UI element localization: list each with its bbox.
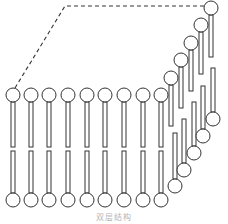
lipid-head <box>42 193 56 207</box>
lipid-head <box>61 88 75 102</box>
lipid-head <box>42 88 56 102</box>
lipid-head <box>187 146 201 160</box>
lipid-head <box>177 163 191 177</box>
lipid-tail <box>182 119 186 163</box>
lipid-tail <box>29 102 33 147</box>
lipid-tail <box>122 102 126 147</box>
lipid-tail <box>209 15 213 57</box>
lipid-head <box>80 193 94 207</box>
lipid-head <box>136 193 150 207</box>
lipid-tail <box>11 151 15 193</box>
lipid-tail <box>189 50 193 91</box>
lipid-head <box>6 193 20 207</box>
lipid-head <box>154 193 168 207</box>
lipid-head <box>194 18 208 32</box>
lipid-tail <box>169 85 173 126</box>
lipid-head <box>168 179 182 193</box>
lipid-head <box>24 88 38 102</box>
lipid-tail <box>141 151 145 193</box>
lipid-tail <box>141 102 145 147</box>
figure-caption: 双层结构 <box>0 211 228 222</box>
lipid-bilayer-diagram <box>0 0 228 224</box>
lipid-head <box>117 88 131 102</box>
lipid-tail <box>199 32 203 74</box>
lipid-tail <box>103 102 107 147</box>
lipid-head <box>196 129 210 143</box>
lipid-head <box>117 193 131 207</box>
lipid-tail <box>192 102 196 146</box>
lipid-tail <box>179 67 183 108</box>
lipid-tail <box>201 86 205 129</box>
lipid-head <box>98 88 112 102</box>
lipid-head <box>98 193 112 207</box>
lipid-tail <box>11 102 15 147</box>
lipid-tail <box>173 133 177 179</box>
lipid-tail <box>122 151 126 193</box>
lipid-tail <box>29 151 33 193</box>
lipid-tail <box>85 151 89 193</box>
lipid-tail <box>66 102 70 147</box>
lipid-tail <box>159 151 163 193</box>
lipid-tail <box>103 151 107 193</box>
lipid-head <box>80 88 94 102</box>
lipid-head <box>204 1 218 15</box>
lipid-head <box>154 88 168 102</box>
lipid-head <box>174 53 188 67</box>
lipid-head <box>164 71 178 85</box>
lipid-head <box>6 88 20 102</box>
lipid-head <box>136 88 150 102</box>
lipid-tail <box>47 151 51 193</box>
lipid-head <box>184 36 198 50</box>
lipid-tail <box>159 102 163 147</box>
lipid-head <box>206 112 220 126</box>
lipid-tail <box>47 102 51 147</box>
lipid-tail <box>66 151 70 193</box>
lipid-head <box>61 193 75 207</box>
lipid-tail <box>211 68 215 112</box>
lipid-tail <box>85 102 89 147</box>
lipid-head <box>24 193 38 207</box>
